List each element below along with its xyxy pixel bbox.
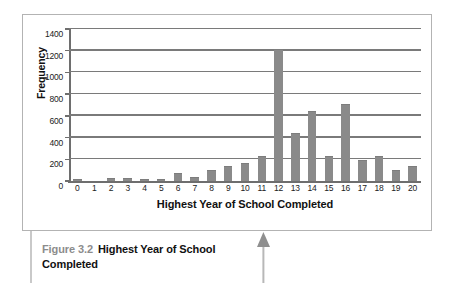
x-axis-tick-label: 1 xyxy=(92,183,97,193)
x-axis-tick-label: 15 xyxy=(324,183,333,193)
bar xyxy=(392,170,401,181)
bar xyxy=(123,178,132,181)
x-axis-tick-label: 12 xyxy=(274,183,283,193)
bar xyxy=(274,49,283,181)
x-axis-tick-label: 19 xyxy=(391,183,400,193)
gridline xyxy=(69,28,421,30)
x-axis-tick-label: 8 xyxy=(209,183,214,193)
y-axis-title: Frequency xyxy=(35,28,47,118)
bar xyxy=(107,178,116,181)
gridline xyxy=(69,93,421,95)
bar xyxy=(408,166,417,181)
gridline xyxy=(69,71,421,73)
x-axis-tick-label: 4 xyxy=(142,183,147,193)
gridline xyxy=(69,136,421,138)
bar xyxy=(190,177,199,181)
x-axis-title: Highest Year of School Completed xyxy=(69,198,421,210)
bar xyxy=(375,156,384,181)
bar xyxy=(241,163,250,181)
x-axis-tick-labels: 01234567891011121314151617181920 xyxy=(69,183,421,197)
x-axis-tick-label: 13 xyxy=(291,183,300,193)
up-arrow-icon xyxy=(256,232,271,283)
figure-caption-number: Figure 3.2 xyxy=(42,243,93,255)
bar xyxy=(291,133,300,181)
bar xyxy=(341,104,350,181)
gridline xyxy=(69,114,421,116)
x-axis-tick-label: 17 xyxy=(358,183,367,193)
x-axis-tick-label: 6 xyxy=(176,183,181,193)
x-axis-tick-label: 0 xyxy=(75,183,80,193)
plot-area xyxy=(69,29,421,181)
figure-caption: Figure 3.2Highest Year of School Complet… xyxy=(42,242,257,272)
bar xyxy=(157,179,166,181)
bar xyxy=(258,156,267,181)
x-axis-tick-label: 3 xyxy=(125,183,130,193)
x-axis-tick-label: 14 xyxy=(308,183,317,193)
bar xyxy=(174,173,183,181)
x-axis-tick-label: 20 xyxy=(408,183,417,193)
gridline xyxy=(69,158,421,160)
bar xyxy=(140,179,149,181)
x-axis-tick-label: 5 xyxy=(159,183,164,193)
bar xyxy=(73,179,82,181)
bar xyxy=(325,156,334,181)
bar xyxy=(207,170,216,181)
bar xyxy=(224,166,233,181)
gridline xyxy=(69,49,421,51)
x-axis-tick-label: 10 xyxy=(240,183,249,193)
x-axis-tick-label: 18 xyxy=(375,183,384,193)
caption-left-rule xyxy=(30,231,32,283)
x-axis-tick-label: 9 xyxy=(226,183,231,193)
x-axis-tick-label: 7 xyxy=(192,183,197,193)
x-axis-tick-label: 2 xyxy=(109,183,114,193)
bar xyxy=(358,160,367,181)
bar xyxy=(308,111,317,181)
x-axis-tick-label: 11 xyxy=(258,183,266,193)
x-axis-tick-label: 16 xyxy=(341,183,350,193)
figure-frame: 0200400600800100012001400 01234567891011… xyxy=(22,14,432,231)
